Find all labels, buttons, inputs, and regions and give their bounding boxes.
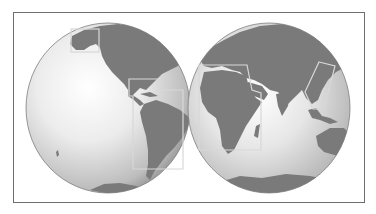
antarctica-east [220, 174, 330, 196]
greenland [150, 22, 180, 40]
western-hemisphere-globe [26, 22, 190, 196]
eastern-hemisphere-globe [188, 23, 352, 196]
world-map [0, 0, 376, 214]
